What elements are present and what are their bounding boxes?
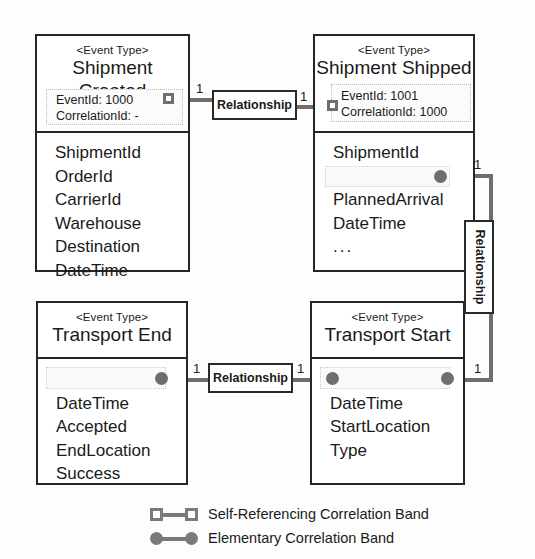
- highlight-transportid-transport-end: [46, 367, 166, 389]
- relationship-box-right[interactable]: Relationship: [464, 220, 494, 314]
- correlation-id-text: CorrelationId: 1000: [332, 104, 470, 120]
- self-referencing-band-icon: [148, 503, 200, 527]
- shipment-shipped-name: Shipment Shipped: [315, 56, 473, 79]
- relationship-label: Relationship: [217, 98, 292, 112]
- relationship-label: Relationship: [472, 229, 486, 304]
- transport-end-header: <Event Type> Transport End: [38, 303, 186, 346]
- attribute-row: PlannedArrival: [333, 188, 444, 212]
- multiplicity-label: 1: [474, 158, 481, 172]
- attribute-row: DateTime: [330, 392, 430, 416]
- relationship-label: Relationship: [213, 371, 288, 385]
- event-box-shipment-shipped[interactable]: <Event Type> Shipment Shipped ShipmentId…: [313, 34, 475, 272]
- multiplicity-label: 1: [297, 362, 304, 376]
- shipment-shipped-header: <Event Type> Shipment Shipped: [315, 36, 473, 79]
- attribute-row: EndLocation: [56, 439, 151, 463]
- elementary-connector-dot[interactable]: [155, 372, 168, 385]
- shipment-shipped-stereotype: <Event Type>: [315, 43, 473, 57]
- legend-label: Self-Referencing Correlation Band: [208, 504, 429, 525]
- multiplicity-label: 1: [193, 362, 200, 376]
- event-id-text: EventId: 1000: [47, 90, 182, 108]
- attribute-row: ShipmentId: [333, 141, 444, 165]
- attribute-row: Accepted: [56, 415, 151, 439]
- attribute-row: ShipmentId: [55, 141, 141, 165]
- self-referencing-connector-square[interactable]: [327, 100, 338, 111]
- relationship-box-bottom[interactable]: Relationship: [208, 363, 293, 393]
- multiplicity-label: 1: [196, 82, 203, 96]
- legend-label: Elementary Correlation Band: [208, 528, 394, 549]
- elementary-connector-dot[interactable]: [434, 170, 447, 183]
- attribute-row: Destination: [55, 235, 141, 259]
- event-box-shipment-created[interactable]: <Event Type> Shipment Created ShipmentId…: [35, 34, 190, 272]
- attribute-row: DateTime: [55, 259, 141, 283]
- shipment-created-stereotype: <Event Type>: [37, 43, 188, 57]
- event-box-transport-start[interactable]: <Event Type> Transport Start TransportId…: [310, 301, 465, 485]
- highlight-transportid-transport-start: [320, 367, 450, 389]
- event-id-text: EventId: 1001: [332, 85, 470, 104]
- elementary-connector-dot[interactable]: [326, 372, 339, 385]
- attribute-row: DateTime: [333, 212, 444, 236]
- elementary-connector-dot[interactable]: [441, 372, 454, 385]
- attribute-row: Success: [56, 462, 151, 486]
- attribute-row: OrderId: [55, 165, 141, 189]
- diagram-canvas: <Event Type> Shipment Created ShipmentId…: [0, 0, 535, 559]
- shipment-created-attributes: ShipmentId OrderId CarrierId Warehouse D…: [37, 132, 141, 288]
- multiplicity-label: 1: [300, 90, 307, 104]
- transport-end-stereotype: <Event Type>: [38, 310, 186, 324]
- elementary-band-icon: [148, 527, 200, 551]
- self-referencing-connector-square[interactable]: [163, 93, 174, 104]
- multiplicity-label: 1: [474, 362, 481, 376]
- highlight-transportid-shipment-shipped: [325, 166, 450, 187]
- transport-end-name: Transport End: [38, 323, 186, 346]
- attribute-row: CarrierId: [55, 188, 141, 212]
- relationship-box-top[interactable]: Relationship: [212, 90, 297, 120]
- event-box-transport-end[interactable]: <Event Type> Transport End TransportId D…: [36, 301, 188, 485]
- attribute-row: ...: [333, 235, 444, 259]
- transport-start-name: Transport Start: [312, 323, 463, 346]
- attribute-row: Type: [330, 439, 430, 463]
- attribute-row: DateTime: [56, 392, 151, 416]
- transport-start-header: <Event Type> Transport Start: [312, 303, 463, 346]
- correlation-id-text: CorrelationId: -: [47, 108, 182, 124]
- correlation-band-shipment-shipped: EventId: 1001 CorrelationId: 1000: [331, 84, 471, 122]
- transport-start-stereotype: <Event Type>: [312, 310, 463, 324]
- attribute-row: StartLocation: [330, 415, 430, 439]
- shipment-shipped-attributes: ShipmentId TransportId PlannedArrival Da…: [315, 132, 444, 265]
- attribute-row: Warehouse: [55, 212, 141, 236]
